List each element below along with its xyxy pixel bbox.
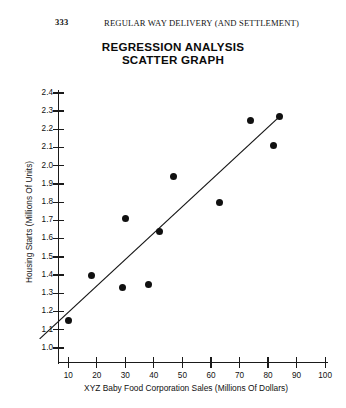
data-point bbox=[247, 117, 254, 124]
y-tick bbox=[53, 293, 64, 294]
data-point bbox=[88, 272, 95, 279]
x-tick bbox=[182, 357, 183, 368]
x-tick bbox=[325, 357, 326, 368]
x-tick-label: 80 bbox=[255, 371, 281, 380]
page-canvas: 333 REGULAR WAY DELIVERY (AND SETTLEMENT… bbox=[0, 0, 346, 408]
y-tick bbox=[53, 311, 64, 312]
x-tick-label: 90 bbox=[284, 371, 310, 380]
y-tick bbox=[53, 129, 64, 130]
x-tick bbox=[96, 357, 97, 368]
y-tick bbox=[53, 220, 64, 221]
y-tick bbox=[53, 110, 64, 111]
y-tick-label: 1.1 bbox=[13, 326, 53, 334]
y-tick bbox=[53, 92, 64, 93]
scatter-plot: 1.01.11.21.31.41.51.61.71.81.92.02.12.22… bbox=[0, 0, 346, 408]
x-axis-line bbox=[58, 362, 328, 363]
x-tick bbox=[210, 357, 211, 368]
y-tick-label: 2.3 bbox=[13, 107, 53, 115]
y-tick bbox=[53, 147, 64, 148]
y-tick bbox=[53, 165, 64, 166]
x-axis-label: XYZ Baby Food Corporation Sales (Million… bbox=[0, 383, 346, 393]
x-tick-label: 100 bbox=[312, 371, 338, 380]
data-point bbox=[216, 199, 223, 206]
x-tick bbox=[153, 357, 154, 368]
y-tick bbox=[53, 274, 64, 275]
data-point bbox=[170, 173, 177, 180]
data-point bbox=[270, 142, 277, 149]
data-point bbox=[119, 284, 126, 291]
y-tick bbox=[53, 329, 64, 330]
x-tick-label: 30 bbox=[112, 371, 138, 380]
y-axis-line bbox=[58, 90, 59, 364]
x-tick bbox=[68, 357, 69, 368]
y-tick-label: 1.0 bbox=[13, 344, 53, 352]
x-tick-label: 20 bbox=[84, 371, 110, 380]
x-tick-label: 40 bbox=[141, 371, 167, 380]
data-point bbox=[65, 317, 72, 324]
x-tick bbox=[239, 357, 240, 368]
x-tick-label: 70 bbox=[227, 371, 253, 380]
y-axis-label: Housing Starts (Millions Of Units) bbox=[24, 122, 34, 322]
x-tick bbox=[267, 357, 268, 368]
data-point bbox=[145, 281, 152, 288]
data-point bbox=[122, 215, 129, 222]
x-tick-label: 50 bbox=[169, 371, 195, 380]
x-tick bbox=[125, 357, 126, 368]
y-tick bbox=[53, 183, 64, 184]
data-point bbox=[156, 228, 163, 235]
y-tick bbox=[53, 347, 64, 348]
x-tick-label: 60 bbox=[198, 371, 224, 380]
x-tick bbox=[296, 357, 297, 368]
y-tick bbox=[53, 256, 64, 257]
y-tick bbox=[53, 202, 64, 203]
y-tick bbox=[53, 238, 64, 239]
data-point bbox=[276, 113, 283, 120]
x-tick-label: 10 bbox=[55, 371, 81, 380]
y-tick-label: 2.4 bbox=[13, 89, 53, 97]
x-axis-label-text: XYZ Baby Food Corporation Sales (Million… bbox=[58, 383, 288, 393]
